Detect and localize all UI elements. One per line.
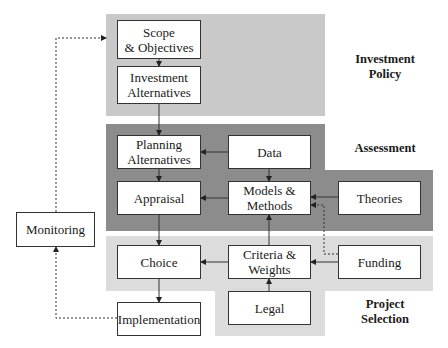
choice-box[interactable]: Choice bbox=[117, 245, 201, 279]
appraisal-box[interactable]: Appraisal bbox=[117, 181, 201, 215]
investment-policy-label: Investment Policy bbox=[340, 52, 430, 82]
investment-alternatives-box[interactable]: Investment Alternatives bbox=[117, 66, 201, 104]
implementation-box[interactable]: Implementation bbox=[117, 302, 201, 336]
criteria-weights-box[interactable]: Criteria & Weights bbox=[228, 245, 311, 279]
data-box[interactable]: Data bbox=[228, 135, 311, 169]
theories-box[interactable]: Theories bbox=[338, 181, 421, 215]
monitoring-box[interactable]: Monitoring bbox=[16, 212, 95, 247]
models-methods-box[interactable]: Models & Methods bbox=[228, 181, 311, 215]
funding-box[interactable]: Funding bbox=[338, 245, 421, 279]
scope-objectives-box[interactable]: Scope & Objectives bbox=[117, 20, 201, 59]
project-selection-label: Project Selection bbox=[340, 297, 430, 327]
legal-box[interactable]: Legal bbox=[228, 291, 311, 325]
planning-alternatives-box[interactable]: Planning Alternatives bbox=[117, 135, 201, 169]
assessment-label: Assessment bbox=[340, 141, 430, 156]
